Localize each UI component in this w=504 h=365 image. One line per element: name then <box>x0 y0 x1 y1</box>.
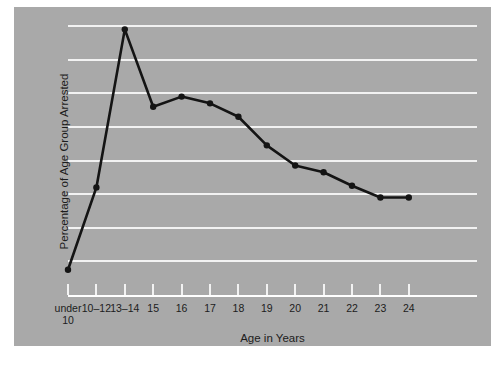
data-point-marker <box>150 104 156 110</box>
data-point-marker <box>93 184 99 190</box>
data-point-marker <box>235 114 241 120</box>
y-axis-title: Percentage of Age Group Arrested <box>58 26 72 297</box>
data-point-marker <box>320 169 326 175</box>
x-tick-label-line2: 10 <box>44 314 92 326</box>
data-point-marker <box>292 162 298 168</box>
series-polyline <box>68 29 409 269</box>
x-axis-title: Age in Years <box>68 332 477 344</box>
data-point-marker <box>349 183 355 189</box>
data-point-marker <box>207 100 213 106</box>
series-line-arrest-percentage <box>68 26 477 297</box>
data-point-marker <box>264 142 270 148</box>
data-point-marker <box>377 194 383 200</box>
x-tick-label: 24 <box>385 302 433 314</box>
data-point-marker <box>406 194 412 200</box>
data-point-marker <box>122 26 128 32</box>
chart-figure: 012345678 under1010–1213–141516171819202… <box>0 0 504 365</box>
plot-area: 012345678 under1010–1213–141516171819202… <box>68 26 477 297</box>
data-point-marker <box>178 93 184 99</box>
